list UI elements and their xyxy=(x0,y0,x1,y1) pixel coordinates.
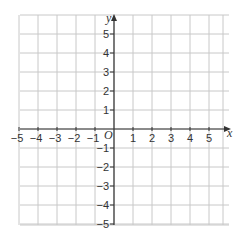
y-tick-label: 5 xyxy=(103,28,109,40)
x-tick-label: −5 xyxy=(11,132,24,144)
x-tick-label: −2 xyxy=(68,132,81,144)
x-tick-label: 4 xyxy=(187,132,193,144)
y-tick-label: −4 xyxy=(96,199,109,211)
x-tick-label: 1 xyxy=(130,132,136,144)
y-tick-label: 2 xyxy=(103,85,109,97)
x-tick-label: 5 xyxy=(206,132,212,144)
grid-lines xyxy=(19,15,229,225)
y-tick-label: −3 xyxy=(96,180,109,192)
origin-label: O xyxy=(104,128,113,142)
coordinate-grid: −5−4−3−2−11234554321−1−2−3−4−5 x y O xyxy=(0,0,238,240)
y-axis-label: y xyxy=(105,11,112,25)
y-tick-label: 4 xyxy=(103,47,109,59)
axes xyxy=(20,14,231,225)
y-tick-label: −5 xyxy=(96,218,109,230)
y-tick-label: 3 xyxy=(103,66,109,78)
x-tick-label: −4 xyxy=(30,132,43,144)
y-tick-label: −2 xyxy=(96,161,109,173)
x-tick-label: 2 xyxy=(149,132,155,144)
y-tick-label: −1 xyxy=(96,142,109,154)
x-axis-label: x xyxy=(226,126,233,140)
y-tick-label: 1 xyxy=(103,104,109,116)
x-tick-label: −3 xyxy=(49,132,62,144)
x-tick-label: 3 xyxy=(168,132,174,144)
